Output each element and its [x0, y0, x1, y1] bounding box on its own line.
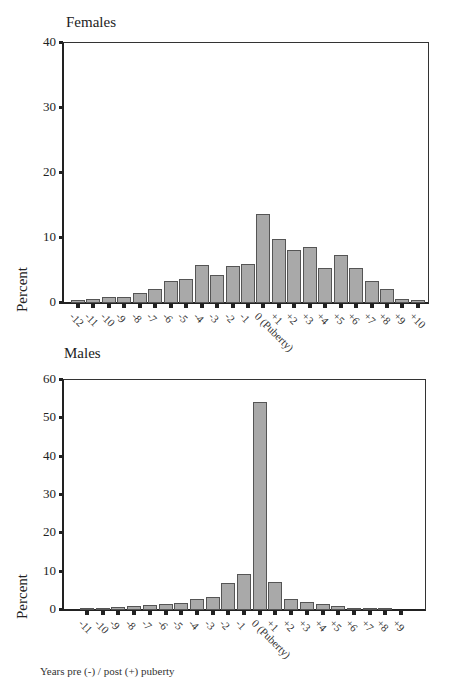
- females-bar: [164, 281, 178, 303]
- males-x-tick-label: -4: [186, 617, 201, 632]
- males-x-tick-mark: [258, 611, 262, 615]
- males-y-tick-mark: [59, 570, 63, 573]
- females-x-tick-mark: [138, 304, 142, 308]
- males-x-tick-mark: [289, 611, 293, 615]
- females-x-tick-label: -4: [191, 310, 206, 325]
- females-x-tick-label: -7: [145, 310, 160, 325]
- males-x-tick-label: -9: [108, 617, 123, 632]
- males-y-axis-label: Percent: [14, 574, 31, 619]
- females-bar: [334, 255, 348, 303]
- females-x-tick-label: -6: [160, 310, 175, 325]
- males-bar: [221, 583, 235, 610]
- males-x-tick-label: +5: [328, 617, 345, 634]
- females-x-tick-mark: [107, 304, 111, 308]
- males-x-tick-mark: [195, 611, 199, 615]
- females-y-tick-label: 20: [28, 164, 56, 180]
- females-x-tick-mark: [76, 304, 80, 308]
- females-x-tick-mark: [354, 304, 358, 308]
- males-y-tick-mark: [59, 493, 63, 496]
- males-bar: [174, 603, 188, 610]
- males-x-tick-label: -11: [77, 617, 96, 636]
- females-x-tick-mark: [184, 304, 188, 308]
- males-x-tick-mark: [273, 611, 277, 615]
- males-x-tick-label: -3: [202, 617, 217, 632]
- males-y-tick-label: 40: [28, 448, 56, 464]
- males-bar: [331, 606, 345, 610]
- females-bar: [133, 293, 147, 303]
- females-bar: [349, 268, 363, 303]
- females-y-tick-label: 40: [28, 34, 56, 50]
- females-bar: [318, 268, 332, 303]
- females-bar: [287, 250, 301, 303]
- males-y-tick-label: 20: [28, 524, 56, 540]
- females-x-tick-mark: [153, 304, 157, 308]
- males-x-tick-label: +2: [281, 617, 298, 634]
- females-bar: [256, 214, 270, 303]
- males-x-tick-mark: [116, 611, 120, 615]
- females-bar: [411, 300, 425, 303]
- females-y-tick-label: 30: [28, 99, 56, 115]
- females-x-tick-mark: [400, 304, 404, 308]
- males-bar: [237, 574, 251, 610]
- females-x-tick-mark: [169, 304, 173, 308]
- females-bar: [195, 265, 209, 303]
- females-bar: [71, 300, 85, 303]
- females-x-tick-mark: [323, 304, 327, 308]
- males-bar: [80, 608, 94, 610]
- males-x-tick-mark: [148, 611, 152, 615]
- females-bar: [102, 297, 116, 303]
- females-bar: [148, 289, 162, 303]
- males-bar: [378, 608, 392, 610]
- females-x-tick-label: -2: [222, 310, 237, 325]
- females-x-tick-mark: [261, 304, 265, 308]
- females-bar: [380, 289, 394, 303]
- males-title: Males: [64, 345, 101, 362]
- males-x-tick-label: +4: [312, 617, 329, 634]
- males-x-tick-mark: [179, 611, 183, 615]
- females-y-tick-label: 0: [28, 294, 56, 310]
- males-bar: [347, 608, 361, 610]
- females-x-tick-mark: [385, 304, 389, 308]
- females-x-tick-label: +4: [315, 310, 332, 327]
- males-x-tick-label: +8: [375, 617, 392, 634]
- males-bar: [190, 599, 204, 610]
- males-bar: [96, 608, 110, 610]
- females-x-tick-mark: [122, 304, 126, 308]
- females-x-tick-label: -1: [237, 310, 252, 325]
- males-x-tick-mark: [383, 611, 387, 615]
- females-x-tick-label: -8: [129, 310, 144, 325]
- males-x-tick-mark: [399, 611, 403, 615]
- females-x-tick-mark: [308, 304, 312, 308]
- males-y-tick-label: 60: [28, 371, 56, 387]
- males-bar: [253, 402, 267, 610]
- females-bar: [241, 264, 255, 303]
- males-x-tick-mark: [336, 611, 340, 615]
- males-y-tick-mark: [59, 531, 63, 534]
- females-bar: [86, 299, 100, 303]
- females-y-tick-mark: [59, 236, 63, 239]
- females-x-tick-mark: [277, 304, 281, 308]
- females-x-tick-label: +6: [346, 310, 363, 327]
- males-x-tick-label: -5: [171, 617, 186, 632]
- males-y-tick-mark: [59, 378, 63, 381]
- males-x-tick-label: -1: [234, 617, 249, 632]
- females-title: Females: [66, 14, 116, 31]
- females-bar: [303, 247, 317, 303]
- males-x-tick-mark: [164, 611, 168, 615]
- males-x-tick-mark: [132, 611, 136, 615]
- males-bar: [284, 599, 298, 610]
- males-x-tick-mark: [226, 611, 230, 615]
- females-y-axis-label: Percent: [14, 267, 31, 312]
- females-bar: [226, 266, 240, 303]
- males-bar: [363, 608, 377, 610]
- males-bar: [127, 606, 141, 610]
- males-x-tick-label: -6: [155, 617, 170, 632]
- females-x-tick-mark: [246, 304, 250, 308]
- females-x-tick-label: +7: [361, 310, 378, 327]
- females-bar: [179, 279, 193, 303]
- males-bar: [300, 602, 314, 610]
- males-y-tick-label: 10: [28, 563, 56, 579]
- females-y-tick-mark: [59, 301, 63, 304]
- males-y-tick-label: 30: [28, 486, 56, 502]
- females-x-tick-label: +2: [284, 310, 301, 327]
